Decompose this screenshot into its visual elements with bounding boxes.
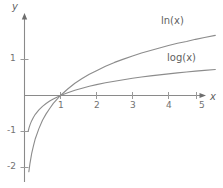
y-tick-label-1: 1 <box>10 54 16 63</box>
x-tick-label-3: 3 <box>130 101 136 110</box>
logarithm-graph-figure: y x 1 -1 -2 1 2 3 4 5 ln(x) log(x) <box>0 0 223 188</box>
y-axis-arrowhead <box>22 13 27 20</box>
y-tick-label-minus1: -1 <box>7 126 16 135</box>
x-tick-label-4: 4 <box>166 101 172 110</box>
x-tick-label-1: 1 <box>58 101 64 110</box>
curve-label-ln: ln(x) <box>161 16 184 26</box>
plot-canvas <box>0 0 223 188</box>
curve-label-log: log(x) <box>167 53 196 63</box>
x-tick-label-2: 2 <box>94 101 100 110</box>
y-tick-label-minus2: -2 <box>7 162 16 171</box>
x-axis-label: x <box>210 92 216 102</box>
x-axis-arrowhead <box>200 93 207 98</box>
x-tick-label-5: 5 <box>199 101 205 110</box>
y-axis-label: y <box>12 2 18 12</box>
